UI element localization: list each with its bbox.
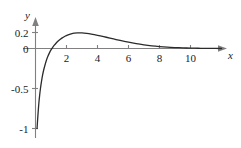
plot-area (0, 0, 241, 148)
x-tick-label: 10 (171, 53, 211, 64)
y-tick-label: -0.5 (0, 84, 29, 95)
chart-figure: 0.20-0.5-1 246810 y x (0, 0, 241, 148)
data-curve (37, 33, 221, 129)
x-axis-label: x (228, 50, 233, 61)
y-axis-arrowhead (32, 17, 39, 26)
y-tick-label: -1 (0, 124, 29, 135)
y-axis-label: y (25, 10, 30, 21)
y-tick-label: 0 (0, 44, 29, 55)
axes-group (23, 17, 227, 138)
y-tick-label: 0.2 (0, 28, 29, 39)
